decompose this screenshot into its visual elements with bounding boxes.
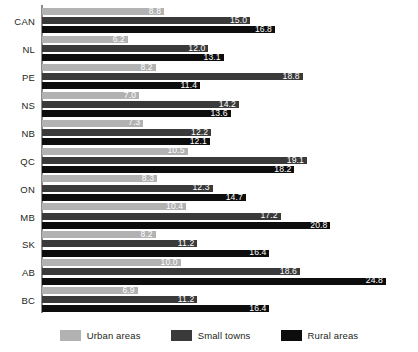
bar xyxy=(42,250,269,257)
bar-track: 11.2 xyxy=(42,240,418,247)
bar xyxy=(42,17,250,24)
bar xyxy=(42,8,164,15)
bar xyxy=(42,148,188,155)
category-label: NL xyxy=(0,44,35,55)
bar-value-label: 8.8 xyxy=(149,6,164,17)
bar xyxy=(42,64,156,71)
bar xyxy=(42,138,210,145)
bar-value-label: 16.4 xyxy=(249,303,269,314)
bar-value-label: 11.2 xyxy=(178,238,198,249)
bar-value-label: 15.0 xyxy=(230,15,250,26)
bar-track: 10.0 xyxy=(42,259,418,266)
bar-track: 8.8 xyxy=(42,8,418,15)
bar-value-label: 14.7 xyxy=(226,192,246,203)
bar-value-label: 18.2 xyxy=(274,164,294,175)
bar xyxy=(42,231,156,238)
bar-track: 12.1 xyxy=(42,138,418,145)
bar-track: 6.9 xyxy=(42,287,418,294)
bar-track: 11.4 xyxy=(42,82,418,89)
bar xyxy=(42,194,246,201)
category-label: AB xyxy=(0,267,35,278)
bar-track: 24.8 xyxy=(42,278,418,285)
bar xyxy=(42,45,208,52)
legend-item-urban[interactable]: Urban areas xyxy=(60,330,141,341)
bar-track: 18.6 xyxy=(42,268,418,275)
bar-track: 13.1 xyxy=(42,54,418,61)
category-label: ON xyxy=(0,184,35,195)
legend-item-towns[interactable]: Small towns xyxy=(171,330,251,341)
bar-track: 18.2 xyxy=(42,166,418,173)
bar-value-label: 20.8 xyxy=(310,220,330,231)
bar xyxy=(42,175,157,182)
bar-value-label: 10.0 xyxy=(161,257,181,268)
legend-swatch-icon xyxy=(171,330,192,341)
category-label: SK xyxy=(0,239,35,250)
bar xyxy=(42,240,197,247)
bar xyxy=(42,110,231,117)
bar-track: 19.1 xyxy=(42,157,418,164)
bar-track: 16.4 xyxy=(42,305,418,312)
bar xyxy=(42,213,281,220)
bar-track: 8.2 xyxy=(42,64,418,71)
bar-track: 17.2 xyxy=(42,213,418,220)
grouped-bar-chart: CAN8.815.016.8NL6.212.013.1PE8.218.811.4… xyxy=(0,0,418,352)
legend-swatch-icon xyxy=(281,330,302,341)
bar-track: 12.2 xyxy=(42,129,418,136)
bar-value-label: 11.4 xyxy=(181,80,201,91)
bar-track: 10.4 xyxy=(42,203,418,210)
chart-legend: Urban areasSmall townsRural areas xyxy=(0,326,418,344)
bar-value-label: 11.2 xyxy=(178,294,198,305)
bar-value-label: 7.0 xyxy=(124,90,139,101)
bar-value-label: 8.3 xyxy=(142,173,157,184)
legend-label: Urban areas xyxy=(87,330,141,341)
bar-track: 8.3 xyxy=(42,175,418,182)
bar-track: 16.4 xyxy=(42,250,418,257)
category-label: NS xyxy=(0,100,35,111)
bar xyxy=(42,101,239,108)
bar-track: 7.0 xyxy=(42,92,418,99)
bar xyxy=(42,278,386,285)
bar-value-label: 16.8 xyxy=(255,24,275,35)
bar-value-label: 8.2 xyxy=(140,229,155,240)
bar-value-label: 10.4 xyxy=(166,201,186,212)
bar xyxy=(42,203,186,210)
bar xyxy=(42,222,330,229)
bar-track: 13.6 xyxy=(42,110,418,117)
bar-value-label: 18.6 xyxy=(280,266,300,277)
bar xyxy=(42,157,307,164)
bar-value-label: 7.3 xyxy=(128,117,143,128)
bar-track: 12.3 xyxy=(42,185,418,192)
legend-label: Rural areas xyxy=(308,330,359,341)
bar-track: 12.0 xyxy=(42,45,418,52)
bar-value-label: 10.5 xyxy=(167,145,187,156)
bar xyxy=(42,305,269,312)
bar-value-label: 16.4 xyxy=(249,247,269,258)
bar-value-label: 17.2 xyxy=(260,210,280,221)
plot-area: CAN8.815.016.8NL6.212.013.1PE8.218.811.4… xyxy=(0,0,418,318)
category-label: BC xyxy=(0,295,35,306)
bar-track: 15.0 xyxy=(42,17,418,24)
legend-item-rural[interactable]: Rural areas xyxy=(281,330,359,341)
bar-value-label: 13.1 xyxy=(204,52,224,63)
bar-track: 11.2 xyxy=(42,296,418,303)
bar xyxy=(42,82,200,89)
bar-value-label: 12.3 xyxy=(192,182,212,193)
bar-value-label: 13.6 xyxy=(210,108,230,119)
bar xyxy=(42,54,224,61)
bar-track: 18.8 xyxy=(42,73,418,80)
bar-value-label: 8.2 xyxy=(140,62,155,73)
bar-value-label: 12.1 xyxy=(190,136,210,147)
bar-track: 14.7 xyxy=(42,194,418,201)
category-label: MB xyxy=(0,212,35,223)
bar xyxy=(42,73,303,80)
bar xyxy=(42,166,294,173)
bar-value-label: 18.8 xyxy=(283,71,303,82)
bar-track: 16.8 xyxy=(42,26,418,33)
bar-track: 7.3 xyxy=(42,120,418,127)
bar-value-label: 6.9 xyxy=(122,285,137,296)
bar-value-label: 6.2 xyxy=(113,34,128,45)
bar xyxy=(42,26,275,33)
legend-label: Small towns xyxy=(198,330,251,341)
category-label: PE xyxy=(0,72,35,83)
bar xyxy=(42,185,213,192)
